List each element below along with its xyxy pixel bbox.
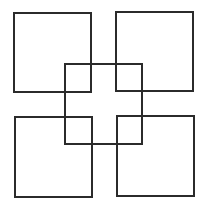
- square-top-right: [116, 12, 193, 91]
- overlapping-squares-diagram: [0, 0, 205, 209]
- square-bottom-left: [15, 117, 92, 197]
- square-top-left: [14, 13, 91, 92]
- square-bottom-right: [117, 116, 194, 196]
- square-center: [65, 64, 142, 144]
